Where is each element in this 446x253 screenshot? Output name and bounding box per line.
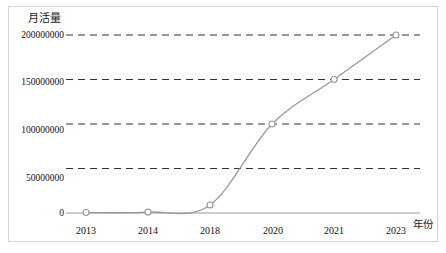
data-point-marker [83,210,89,216]
data-point-marker [145,209,151,215]
data-point-marker [269,121,275,127]
data-point-marker [393,32,399,38]
gridline-group [66,35,420,169]
data-point-marker [331,77,337,83]
data-point-marker [207,202,213,208]
chart-plot-area [0,0,446,253]
chart-container: 月活量 年份 200000000 150000000 100000000 500… [0,0,446,253]
